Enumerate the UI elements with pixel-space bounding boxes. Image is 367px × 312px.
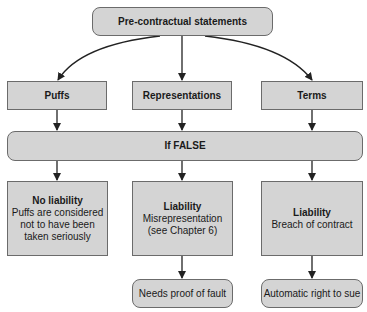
outcome-misrepresentation: Liability Misrepresentation (see Chapter… [132, 181, 233, 256]
outcome-line: not to have been [20, 219, 95, 231]
consequence-right-to-sue: Automatic right to sue [261, 279, 363, 308]
outcome-line: taken seriously [24, 231, 91, 243]
consequence-proof-of-fault: Needs proof of fault [132, 279, 233, 308]
outcome-breach: Liability Breach of contract [261, 181, 363, 256]
outcome-line: (see Chapter 6) [148, 225, 217, 237]
outcome-no-liability: No liability Puffs are considered not to… [7, 181, 108, 256]
condition-if-false: If FALSE [7, 131, 363, 161]
outcome-title: Liability [293, 207, 331, 219]
outcome-title: Liability [164, 201, 202, 213]
outcome-title: No liability [32, 195, 83, 207]
outcome-line: Misrepresentation [143, 213, 222, 225]
outcome-line: Breach of contract [271, 219, 352, 231]
category-puffs: Puffs [7, 81, 107, 110]
category-representations: Representations [132, 81, 232, 110]
category-terms: Terms [261, 81, 363, 110]
root-node: Pre-contractual statements [92, 7, 273, 36]
outcome-line: Puffs are considered [12, 207, 104, 219]
